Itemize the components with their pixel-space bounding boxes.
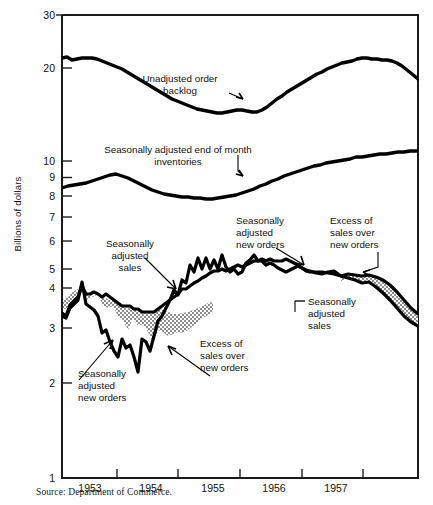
y-tick-5: 5	[49, 263, 55, 275]
anno-excess-right-line1: Excess of	[330, 215, 373, 226]
x-tick-1956: 1956	[262, 482, 286, 494]
annotation-unadjusted-order-backlog: Unadjusted order backlog	[142, 73, 218, 96]
y-tick-6: 6	[49, 235, 55, 247]
anno-sales-right-line2: adjusted	[308, 308, 345, 319]
annotation-sales-left: Seasonally adjusted sales	[106, 238, 154, 273]
annotation-excess-right: Excess of sales over new orders	[330, 215, 379, 250]
anno-excess-left-line1: Excess of	[200, 338, 243, 349]
anno-excess-right-line2: sales over	[330, 227, 375, 238]
source-note: Source: Department of Commerce.	[36, 487, 172, 497]
anno-neworders-left-line2: adjusted	[78, 380, 115, 391]
y-tick-1: 1	[49, 472, 55, 484]
series-line-unadjusted-order-backlog	[62, 57, 418, 113]
anno-neworders-left-line1: Seasonally	[78, 368, 126, 379]
y-tick-30: 30	[43, 9, 55, 21]
anno-sales-left-line3: sales	[119, 262, 142, 273]
anno-sales-left-line1: Seasonally	[106, 238, 154, 249]
x-axis-ticks	[117, 469, 363, 478]
anno-sales-left-line2: adjusted	[111, 250, 148, 261]
y-tick-8: 8	[49, 190, 55, 202]
anno-excess-left-line2: sales over	[200, 350, 245, 361]
y-axis-tick-labels: 30 20 10 9 8 7 6 5 4 3 2 1	[43, 9, 55, 484]
y-tick-9: 9	[49, 171, 55, 183]
anno-inventories-line1: Seasonally adjusted end of month	[104, 144, 252, 155]
y-tick-7: 7	[49, 211, 55, 223]
anno-sales-right-line3: sales	[308, 320, 331, 331]
annotation-new-orders-right: Seasonally adjusted new orders	[236, 215, 285, 250]
anno-neworders-right-line1: Seasonally	[236, 215, 284, 226]
y-tick-2: 2	[49, 377, 55, 389]
annotation-inventories: Seasonally adjusted end of month invento…	[104, 144, 252, 167]
leader-excess-right	[363, 252, 378, 272]
y-tick-20: 20	[43, 62, 55, 74]
chart-figure: Billions of dollars	[0, 0, 433, 505]
leader-sales-left	[145, 258, 176, 289]
y-tick-4: 4	[49, 282, 55, 294]
annotation-sales-right: Seasonally adjusted sales	[308, 296, 356, 331]
annotation-excess-left: Excess of sales over new orders	[200, 338, 249, 373]
anno-neworders-left-line3: new orders	[78, 392, 127, 403]
annotation-new-orders-left: Seasonally adjusted new orders	[78, 368, 127, 403]
x-tick-1957: 1957	[324, 482, 348, 494]
anno-sales-right-line1: Seasonally	[308, 296, 356, 307]
x-tick-1955: 1955	[201, 482, 225, 494]
anno-excess-left-line3: new orders	[200, 362, 249, 373]
anno-inventories-line2: inventories	[154, 156, 201, 167]
anno-backlog-line1: Unadjusted order	[142, 73, 218, 84]
anno-backlog-line2: backlog	[163, 85, 197, 96]
y-tick-3: 3	[49, 322, 55, 334]
anno-neworders-right-line3: new orders	[236, 239, 285, 250]
chart-plot-area: 30 20 10 9 8 7 6 5 4 3 2 1 1953 1954 195…	[0, 0, 433, 505]
y-tick-10: 10	[43, 155, 55, 167]
anno-neworders-right-line2: adjusted	[236, 227, 273, 238]
anno-excess-right-line3: new orders	[330, 239, 379, 250]
y-axis-ticks	[56, 15, 72, 478]
